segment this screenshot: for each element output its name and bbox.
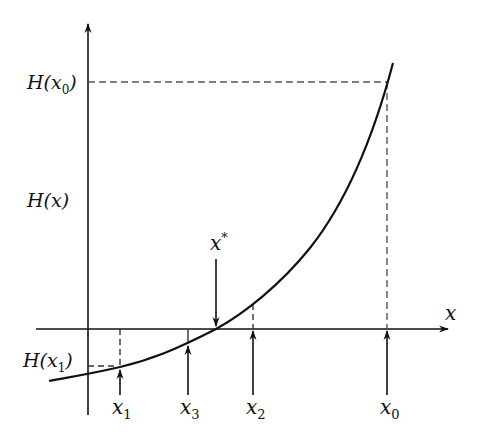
label-h-x0: H(x0): [26, 71, 77, 97]
label-x-star: x*: [210, 230, 228, 255]
label-x2: x2: [246, 395, 266, 422]
diagram-canvas: H(x0) H(x) H(x1) x x* x1 x3 x2 x0: [0, 0, 479, 442]
label-x-axis: x: [445, 301, 456, 325]
label-x1: x1: [112, 395, 132, 422]
label-x0: x0: [380, 395, 400, 422]
h-curve: [49, 63, 393, 381]
label-x3: x3: [180, 395, 200, 422]
label-h-x1: H(x1): [22, 349, 73, 375]
label-h-x: H(x): [26, 189, 69, 211]
